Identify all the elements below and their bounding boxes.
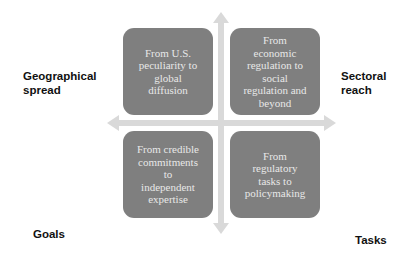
quadrant-bottom-right: From regulatory tasks to policymaking (230, 131, 320, 218)
axis-label-tasks: Tasks (355, 233, 387, 247)
quadrant-bottom-right-text: From regulatory tasks to policymaking (245, 150, 306, 200)
axis-label-geographical-spread: Geographical spread (23, 69, 97, 97)
quadrant-bottom-left: From credible commitments to independent… (123, 131, 213, 218)
quadrant-bottom-left-text: From credible commitments to independent… (137, 143, 199, 206)
quadrant-top-left-text: From U.S. peculiarity to global diffusio… (139, 47, 197, 97)
quadrant-diagram: From U.S. peculiarity to global diffusio… (0, 0, 403, 257)
axis-label-sectoral-reach: Sectoral reach (341, 69, 386, 97)
axis-label-goals: Goals (33, 227, 65, 241)
quadrant-top-right-text: From economic regulation to social regul… (243, 34, 306, 109)
quadrant-top-left: From U.S. peculiarity to global diffusio… (123, 28, 213, 115)
quadrant-top-right: From economic regulation to social regul… (230, 28, 320, 115)
